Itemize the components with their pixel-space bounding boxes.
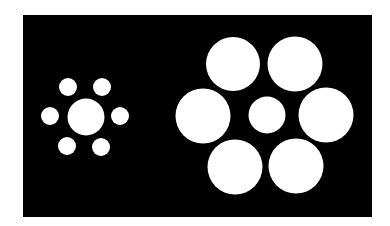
right-center-circle <box>249 97 286 134</box>
right-surround-circle <box>176 89 231 144</box>
left-surround-circle <box>93 78 111 96</box>
right-surround-circle <box>206 37 260 91</box>
left-surround-circle <box>111 107 129 125</box>
right-surround-circle <box>269 139 324 194</box>
left-surround-circle <box>92 138 110 156</box>
right-surround-circle <box>299 88 354 143</box>
left-surround-circle <box>59 78 77 96</box>
left-center-circle <box>68 99 105 136</box>
right-surround-circle <box>208 140 263 195</box>
left-surround-circle <box>58 137 76 155</box>
right-surround-circle <box>268 37 323 92</box>
ebbinghaus-illusion-figure <box>0 0 390 226</box>
left-surround-circle <box>41 107 59 125</box>
